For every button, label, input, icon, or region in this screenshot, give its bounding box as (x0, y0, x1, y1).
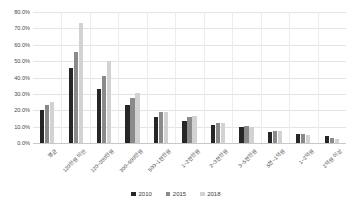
bar (216, 123, 220, 143)
bar-group (147, 12, 175, 143)
x-axis-tick-label: 300~500만원 (117, 147, 143, 173)
bar (40, 110, 44, 143)
bar (239, 127, 243, 143)
y-axis-tick-label: 60.0% (0, 42, 30, 48)
bar-group (204, 12, 232, 143)
x-axis-tick-label: 2~3천만원 (207, 147, 229, 169)
bar-chart: 0.0%10.0%20.0%30.0%40.0%50.0%60.0%70.0%8… (0, 0, 352, 213)
x-axis-tick-label: 2억원 이상 (321, 147, 343, 169)
bar (330, 138, 334, 143)
bar (268, 132, 272, 143)
chart-legend: 201020152018 (0, 191, 352, 197)
bar (301, 134, 305, 143)
legend-label: 2015 (173, 191, 186, 197)
legend-item[interactable]: 2018 (200, 191, 220, 197)
y-axis-tick-label: 80.0% (0, 9, 30, 15)
bar-group (261, 12, 289, 143)
y-axis-tick-label: 40.0% (0, 75, 30, 81)
bar (192, 116, 196, 143)
bar-group (61, 12, 89, 143)
y-axis-tick-label: 10.0% (0, 124, 30, 130)
bar (135, 93, 139, 143)
bar-group (318, 12, 346, 143)
x-axis-tick-label: 120만원 미만 (61, 147, 87, 173)
y-axis-tick-label: 70.0% (0, 25, 30, 31)
bar (74, 52, 78, 143)
bar (159, 112, 163, 143)
legend-item[interactable]: 2015 (166, 191, 186, 197)
plot-area (33, 12, 346, 144)
x-axis-tick-label: 120~300만원 (89, 147, 115, 173)
bar (130, 98, 134, 143)
x-axis-tick-label: 평균 (46, 147, 58, 159)
legend-label: 2018 (207, 191, 220, 197)
y-axis-tick-label: 0.0% (0, 140, 30, 146)
x-axis-tick-label: 3~5천만원 (236, 147, 258, 169)
x-axis-tick-label: 500~1천만원 (146, 147, 172, 173)
bar (97, 89, 101, 143)
bar (306, 135, 310, 144)
bar (182, 121, 186, 143)
bar (278, 131, 282, 143)
legend-swatch-icon (200, 192, 205, 197)
bar (211, 125, 215, 143)
bar (107, 61, 111, 143)
bar-group (90, 12, 118, 143)
bar (249, 127, 253, 143)
legend-swatch-icon (131, 192, 136, 197)
legend-item[interactable]: 2010 (131, 191, 151, 197)
bar-group (33, 12, 61, 143)
bar (79, 23, 83, 143)
bar-group (118, 12, 146, 143)
x-axis-tick-label: 1~2억원 (296, 147, 314, 165)
bar (221, 123, 225, 143)
x-axis-tick-label: 5천~1억원 (264, 147, 286, 169)
x-axis-tick-label: 1~2천만원 (179, 147, 201, 169)
legend-label: 2010 (138, 191, 151, 197)
bar (164, 112, 168, 143)
bar (154, 117, 158, 143)
bar (325, 136, 329, 143)
bar (244, 126, 248, 143)
bar (50, 102, 54, 143)
y-axis-tick-label: 50.0% (0, 58, 30, 64)
bar (102, 76, 106, 143)
y-axis-tick-label: 30.0% (0, 91, 30, 97)
bar (45, 105, 49, 143)
bar (273, 131, 277, 143)
bar (125, 105, 129, 143)
bar-group (175, 12, 203, 143)
bar (69, 68, 73, 143)
bar-group (232, 12, 260, 143)
bar-group (289, 12, 317, 143)
y-axis-tick-label: 20.0% (0, 107, 30, 113)
bar (335, 139, 339, 143)
bar (187, 117, 191, 143)
legend-swatch-icon (166, 192, 171, 197)
bar (296, 134, 300, 143)
x-axis-line (33, 143, 346, 144)
